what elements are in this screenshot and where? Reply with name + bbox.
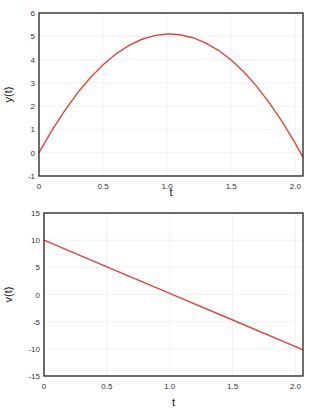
y-tick-label: -1 [28,172,36,181]
data-line [39,34,303,157]
y-tick-label: 10 [31,236,40,245]
y-tick-label: 15 [31,209,40,218]
y-axis-label: v(t) [2,287,14,303]
x-tick-label: 2.0 [290,182,302,191]
y-tick-label: 4 [31,56,36,65]
x-tick-label: 0 [42,382,47,391]
y-tick-label: 6 [31,9,36,18]
y-tick-label: 5 [36,263,41,272]
y-tick-label: 3 [31,79,36,88]
y-tick-label: 0 [36,291,41,300]
x-tick-label: 0 [37,182,42,191]
y-tick-label: -10 [28,345,40,354]
y-tick-label: -15 [28,372,40,381]
y-tick-label: 0 [31,149,36,158]
charts-canvas: 00.51.01.52.06543210-1ty(t)00.51.01.52.0… [0,0,316,417]
x-tick-label: 0.5 [98,182,110,191]
y-tick-label: 5 [31,32,36,41]
x-tick-label: 0.5 [101,382,113,391]
x-tick-label: 2.0 [290,382,302,391]
y-tick-label: -5 [33,318,41,327]
x-tick-label: 1.5 [226,182,238,191]
data-line [44,240,303,350]
velocity-chart: 00.51.01.52.0151050-5-10-15tv(t) [2,209,303,408]
position-chart: 00.51.01.52.06543210-1ty(t) [2,9,303,198]
x-axis-label: t [172,396,175,408]
y-tick-label: 2 [31,102,36,111]
y-tick-label: 1 [31,125,36,134]
y-axis-label: y(t) [2,87,14,103]
x-tick-label: 1.0 [164,382,176,391]
x-axis-label: t [169,186,172,198]
x-tick-label: 1.5 [227,382,239,391]
